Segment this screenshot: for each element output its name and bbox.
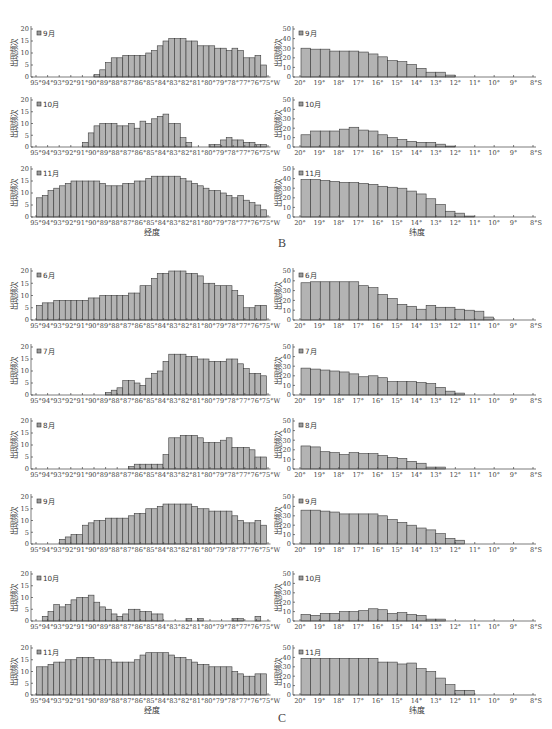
x-tick-label: 91° (77, 79, 89, 87)
x-tick-label: 88° (111, 79, 123, 87)
x-tick-label: 92° (65, 149, 77, 157)
histogram-bar (111, 296, 117, 321)
histogram-bar (255, 616, 261, 621)
x-tick-label: 88° (111, 149, 123, 157)
x-tick-label: 93° (53, 546, 65, 554)
x-tick-label: 86° (135, 546, 147, 554)
x-tick-label: 80° (204, 79, 216, 87)
x-tick-label: 78° (227, 219, 239, 227)
x-tick-label: 90° (88, 697, 100, 705)
x-tick-label: 75°W (262, 219, 281, 227)
histogram-bar (255, 521, 261, 545)
x-tick-label: 88° (111, 623, 123, 631)
histogram-bar (157, 176, 163, 217)
y-tick-label: 40 (283, 277, 291, 285)
x-tick-label: 87° (123, 697, 135, 705)
histogram-bar (445, 685, 455, 695)
y-tick-label: 20 (21, 165, 29, 173)
y-tick-label: 10 (21, 292, 29, 300)
histogram-bar (209, 46, 215, 77)
x-tick-label: 12° (449, 697, 461, 705)
x-tick-label: 10° (488, 546, 500, 554)
histogram-bar (192, 183, 198, 217)
histogram-bar (65, 605, 71, 621)
x-tick-label: 89° (100, 79, 112, 87)
x-tick-label: 83° (169, 79, 181, 87)
histogram-bar (378, 57, 388, 77)
histogram-bar (244, 447, 250, 469)
histogram-bar (180, 657, 186, 695)
histogram-bar (83, 657, 89, 695)
histogram-bar (221, 48, 227, 77)
histogram-bar (117, 662, 123, 695)
histogram-bar (192, 506, 198, 544)
histogram-bar (94, 126, 100, 147)
x-tick-label: 14° (411, 546, 423, 554)
histogram-bar (436, 307, 446, 320)
histogram-bar (426, 672, 436, 696)
histogram-bar (180, 271, 186, 320)
histogram-bar (388, 298, 398, 320)
x-tick-label: 19° (314, 219, 326, 227)
histogram-bar (311, 658, 321, 695)
histogram-bar (111, 58, 117, 77)
histogram-bar (123, 126, 129, 147)
x-tick-label: 75°W (262, 322, 281, 330)
histogram-bar (134, 464, 140, 469)
y-tick-label: 10 (21, 120, 29, 128)
x-tick-label: 85° (146, 623, 158, 631)
histogram-bar (169, 504, 175, 544)
histogram-bar (111, 614, 117, 621)
x-tick-label: 75°W (262, 79, 281, 87)
histogram-bar (330, 51, 340, 77)
histogram-bar (129, 55, 135, 77)
x-tick-label: 94° (42, 79, 54, 87)
histogram-bar (368, 131, 378, 147)
histogram-bar (311, 510, 321, 544)
y-tick-label: 15 (21, 37, 29, 45)
x-tick-label: 19° (314, 623, 326, 631)
legend-swatch-icon (299, 102, 303, 106)
histogram-bar (198, 509, 204, 544)
x-tick-label: 17° (352, 471, 364, 479)
histogram-bar (320, 658, 330, 695)
x-tick-label: 9° (510, 546, 518, 554)
histogram-bar (407, 614, 417, 621)
histogram-bar (134, 513, 140, 544)
y-tick-label: 0 (287, 691, 291, 699)
x-tick-label: 84° (158, 397, 170, 405)
histogram-bar (100, 521, 106, 545)
y-axis-title: 出现频次 (9, 109, 19, 138)
x-tick-label: 9° (510, 149, 518, 157)
histogram-bar (455, 213, 465, 217)
histogram-bar (169, 354, 175, 395)
x-tick-label: 95° (30, 79, 42, 87)
y-tick-label: 0 (25, 691, 29, 699)
histogram-bar (203, 359, 209, 395)
histogram-bar (261, 674, 267, 695)
legend-swatch-icon (37, 576, 41, 580)
y-tick-label: 5 (25, 132, 29, 140)
histogram-bar (129, 381, 135, 395)
histogram-bar (146, 464, 152, 469)
x-tick-label: 80° (204, 397, 216, 405)
histogram-bar (232, 291, 238, 320)
histogram-bar (129, 467, 135, 469)
x-tick-label: 75°W (262, 623, 281, 631)
histogram-bar (180, 39, 186, 77)
x-tick-label: 77° (239, 79, 251, 87)
histogram-bar (417, 669, 427, 695)
x-tick-label: 81° (193, 397, 205, 405)
y-tick-label: 0 (287, 465, 291, 473)
x-tick-label: 95° (30, 546, 42, 554)
x-tick-label: 15° (391, 471, 403, 479)
histogram-bar (186, 357, 192, 395)
histogram-bar (100, 183, 106, 217)
histogram-bar (140, 464, 146, 469)
x-tick-label: 85° (146, 697, 158, 705)
x-tick-label: 12° (449, 149, 461, 157)
y-tick-label: 50 (283, 165, 291, 173)
x-tick-label: 80° (204, 149, 216, 157)
x-tick-label: 78° (227, 79, 239, 87)
legend-swatch-icon (299, 349, 303, 353)
